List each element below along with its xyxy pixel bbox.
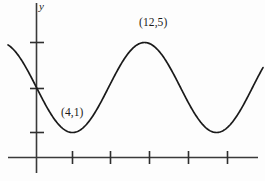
minimum-point-label: (4,1) — [61, 106, 84, 118]
y-axis-label: y — [39, 0, 44, 13]
graph-figure: y (4,1) (12,5) — [0, 0, 265, 181]
sinusoid-curve — [8, 43, 263, 133]
maximum-point-label: (12,5) — [139, 16, 167, 28]
sinusoid-plot-svg — [0, 0, 265, 181]
